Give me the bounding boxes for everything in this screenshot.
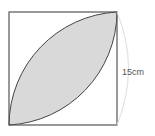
- shaded-lens: [9, 12, 117, 125]
- geometry-diagram: 15cm: [0, 0, 155, 136]
- side-length-label: 15cm: [122, 67, 144, 77]
